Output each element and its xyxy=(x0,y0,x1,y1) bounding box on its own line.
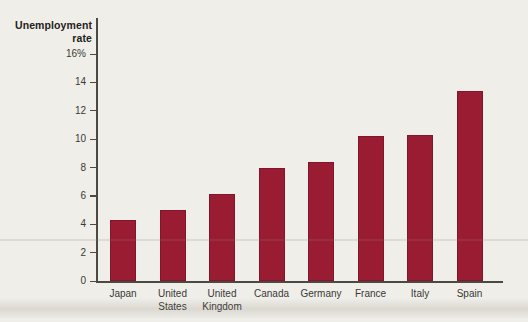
y-tick-mark-10 xyxy=(90,139,96,140)
y-tick-mark-12 xyxy=(90,110,96,111)
y-tick-mark-14 xyxy=(90,82,96,83)
y-axis-line xyxy=(96,18,98,282)
x-label-spain: Spain xyxy=(438,287,502,300)
page-edge-shadow xyxy=(0,298,528,318)
y-tick-label-4: 4 xyxy=(52,218,86,230)
y-tick-label-16: 16% xyxy=(52,48,86,60)
y-tick-label-2: 2 xyxy=(52,247,86,259)
y-axis-title: Unemployment rate xyxy=(2,19,92,44)
y-tick-mark-8 xyxy=(90,167,96,168)
bar-united-kingdom xyxy=(209,194,235,281)
y-axis-title-line2: rate xyxy=(2,32,92,45)
bar-germany xyxy=(308,162,334,281)
bar-canada xyxy=(259,168,285,282)
bar-spain xyxy=(457,91,483,281)
bar-united-states xyxy=(160,210,186,281)
y-tick-mark-4 xyxy=(90,224,96,225)
y-tick-label-14: 14 xyxy=(52,76,86,88)
y-tick-mark-6 xyxy=(90,195,96,196)
bar-japan xyxy=(110,220,136,281)
x-axis-line xyxy=(96,281,503,283)
bar-italy xyxy=(407,135,433,281)
y-tick-mark-2 xyxy=(90,252,96,253)
y-axis-title-line1: Unemployment xyxy=(2,19,92,32)
y-tick-mark-16 xyxy=(90,54,96,55)
y-tick-label-12: 12 xyxy=(52,105,86,117)
unemployment-bar-chart-figure: Unemployment rate 0246810121416% JapanUn… xyxy=(0,0,528,322)
y-tick-label-8: 8 xyxy=(52,162,86,174)
y-tick-label-6: 6 xyxy=(52,190,86,202)
y-tick-label-10: 10 xyxy=(52,133,86,145)
y-tick-label-0: 0 xyxy=(52,275,86,287)
bar-france xyxy=(358,136,384,281)
y-tick-mark-0 xyxy=(90,281,96,282)
